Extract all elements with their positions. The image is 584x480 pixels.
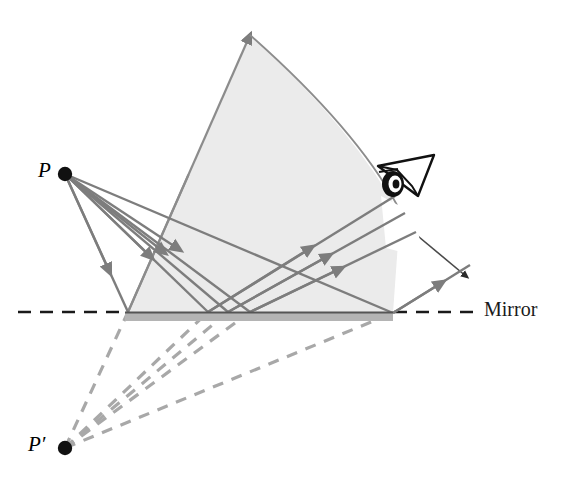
figure-canvas: P P′ Mirror [0, 0, 584, 480]
ray-diagram [0, 0, 584, 480]
label-mirror: Mirror [484, 298, 537, 321]
image-point-P-prime [58, 441, 72, 455]
object-point-P [58, 167, 72, 181]
label-object-point: P [38, 158, 51, 183]
mirror-surface [125, 312, 393, 321]
label-image-point: P′ [28, 432, 45, 457]
virtual-rays [65, 312, 393, 448]
eye-icon [378, 155, 434, 197]
